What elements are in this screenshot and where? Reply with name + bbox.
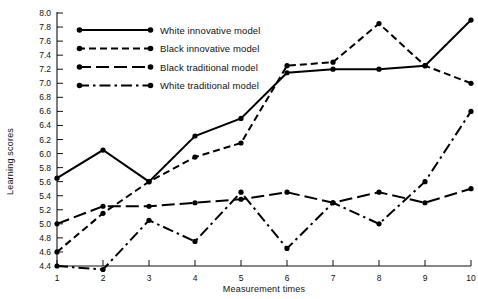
y-tick-label: 6.0 (39, 149, 51, 159)
y-tick-label: 5.6 (39, 177, 51, 187)
series-line-3 (57, 111, 471, 269)
data-point (284, 70, 289, 75)
data-point (54, 176, 59, 181)
data-point (284, 246, 289, 251)
y-tick-label: 8.0 (39, 8, 51, 18)
data-point (238, 116, 243, 121)
x-axis-ticks: 12345678910 (55, 260, 476, 283)
y-tick-label: 6.4 (39, 120, 51, 130)
legend-label-1: Black innovative model (160, 43, 259, 54)
data-point (422, 63, 427, 68)
y-axis-ticks: 4.44.64.85.05.25.45.65.86.06.26.46.66.87… (39, 8, 63, 271)
legend-marker-start-2 (77, 64, 83, 70)
data-point (376, 67, 381, 72)
data-point (192, 239, 197, 244)
legend-marker-end-0 (148, 27, 154, 33)
data-point (238, 140, 243, 145)
data-point (376, 221, 381, 226)
plot-area (54, 17, 473, 272)
data-point (468, 109, 473, 114)
y-tick-label: 7.8 (39, 22, 51, 32)
x-tick-label: 10 (466, 273, 476, 283)
y-tick-label: 5.8 (39, 163, 51, 173)
data-point (422, 179, 427, 184)
data-point (284, 63, 289, 68)
data-point (376, 190, 381, 195)
data-point (54, 263, 59, 268)
data-point (468, 17, 473, 22)
x-tick-label: 2 (101, 273, 106, 283)
y-tick-label: 6.6 (39, 106, 51, 116)
y-tick-label: 5.4 (39, 191, 51, 201)
data-point (468, 81, 473, 86)
series-line-1 (57, 24, 471, 252)
data-point (192, 154, 197, 159)
x-tick-label: 8 (377, 273, 382, 283)
x-tick-label: 9 (423, 273, 428, 283)
x-tick-label: 5 (239, 273, 244, 283)
data-point (330, 60, 335, 65)
data-point (146, 204, 151, 209)
x-tick-label: 6 (285, 273, 290, 283)
y-tick-label: 4.4 (39, 261, 51, 271)
data-point (100, 211, 105, 216)
y-axis-title: Learning scores (5, 128, 15, 195)
y-tick-label: 6.2 (39, 135, 51, 145)
y-tick-label: 4.6 (39, 247, 51, 257)
legend-marker-start-3 (77, 83, 83, 89)
legend-marker-start-1 (77, 46, 83, 52)
data-point (422, 200, 427, 205)
x-tick-label: 7 (331, 273, 336, 283)
legend-label-3: White traditional model (160, 80, 259, 91)
data-point (330, 200, 335, 205)
x-tick-label: 3 (147, 273, 152, 283)
legend-marker-start-0 (77, 27, 83, 33)
data-point (376, 21, 381, 26)
data-point (192, 200, 197, 205)
data-point (54, 249, 59, 254)
data-point (146, 179, 151, 184)
legend-label-2: Black traditional model (160, 62, 258, 73)
y-tick-label: 7.6 (39, 36, 51, 46)
chart-legend: White innovative modelBlack innovative m… (77, 25, 261, 92)
data-point (146, 218, 151, 223)
data-point (192, 133, 197, 138)
data-point (284, 190, 289, 195)
x-axis-title: Measurement times (223, 284, 306, 294)
data-point (100, 147, 105, 152)
learning-scores-line-chart: Learning scores 4.44.64.85.05.25.45.65.8… (0, 0, 478, 299)
y-tick-label: 4.8 (39, 233, 51, 243)
y-tick-label: 7.4 (39, 50, 51, 60)
x-tick-label: 1 (55, 273, 60, 283)
data-point (238, 197, 243, 202)
data-point (468, 186, 473, 191)
y-tick-label: 6.8 (39, 92, 51, 102)
legend-marker-end-3 (148, 83, 154, 89)
y-tick-label: 7.0 (39, 78, 51, 88)
y-tick-label: 7.2 (39, 64, 51, 74)
y-tick-label: 5.2 (39, 205, 51, 215)
data-point (54, 221, 59, 226)
series-line-0 (57, 20, 471, 182)
legend-marker-end-2 (148, 64, 154, 70)
legend-label-0: White innovative model (160, 25, 260, 36)
data-point (238, 190, 243, 195)
data-point (100, 204, 105, 209)
y-tick-label: 5.0 (39, 219, 51, 229)
series-line-2 (57, 189, 471, 224)
x-tick-label: 4 (193, 273, 198, 283)
data-point (330, 67, 335, 72)
data-point (100, 267, 105, 272)
legend-marker-end-1 (148, 46, 154, 52)
